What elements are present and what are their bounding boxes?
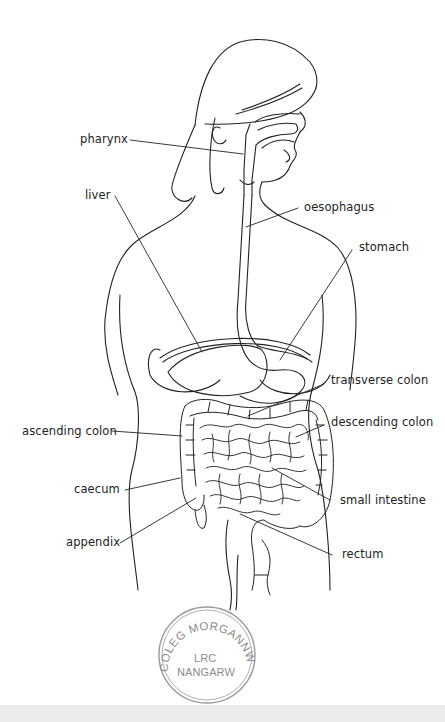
stamp-ring-text: COLEG MORGANNWG	[0, 0, 258, 672]
stamp-line-2: NANGARW	[177, 666, 235, 678]
stamp-line-1: LRC	[194, 652, 216, 664]
stamp-text-ring: COLEG MORGANNWG	[0, 0, 445, 722]
svg-text:COLEG MORGANNWG: COLEG MORGANNWG	[0, 0, 258, 672]
page-edge-band	[0, 705, 445, 722]
